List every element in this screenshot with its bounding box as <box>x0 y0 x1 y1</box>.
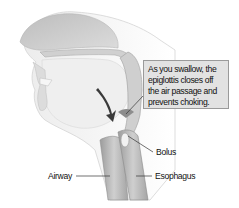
bolus <box>121 133 129 147</box>
airway-label: Airway <box>48 171 72 181</box>
esophagus-label: Esophagus <box>155 171 195 181</box>
bolus-label: Bolus <box>156 147 176 157</box>
epiglottis-callout-box: As you swallow, the epiglottis closes of… <box>143 60 229 109</box>
swallowing-diagram: As you swallow, the epiglottis closes of… <box>0 0 239 208</box>
callout-text: As you swallow, the epiglottis closes of… <box>148 64 217 107</box>
